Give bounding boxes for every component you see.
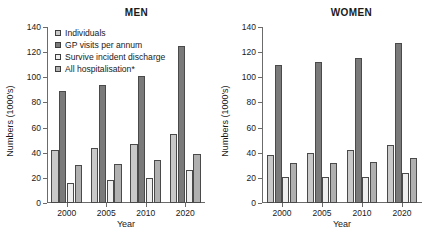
- y-tick-label: 100: [27, 72, 41, 82]
- bar: [267, 155, 274, 203]
- y-axis-label-men: Numbers (1000's): [5, 85, 15, 156]
- bar: [362, 177, 369, 203]
- y-tick-label: 40: [247, 148, 256, 158]
- y-axis-label-women: Numbers (1000's): [220, 85, 230, 156]
- bar: [67, 183, 74, 203]
- legend-item: GP visits per annum: [55, 40, 165, 51]
- y-tick-label: 20: [247, 173, 256, 183]
- bar: [290, 163, 297, 203]
- x-tick: [185, 203, 186, 207]
- plot-area-women: 0204060801001201402000200520102020: [262, 27, 422, 203]
- panel-women: WOMEN Numbers (1000's) 02040608010012014…: [217, 0, 434, 242]
- bar-group-2000: 2000: [262, 27, 302, 203]
- bar: [59, 91, 66, 203]
- y-tick-label: 60: [247, 123, 256, 133]
- figure: MEN Numbers (1000's) 0204060801001201402…: [0, 0, 434, 242]
- x-tick-label: 2010: [136, 208, 155, 218]
- bar: [395, 43, 402, 203]
- x-tick-label: 2000: [57, 208, 76, 218]
- y-tick: [258, 203, 262, 204]
- bar: [51, 150, 58, 203]
- y-tick-label: 140: [242, 22, 256, 32]
- x-tick-label: 2000: [273, 208, 292, 218]
- x-tick-label: 2010: [353, 208, 372, 218]
- x-axis-label-women: Year: [262, 219, 422, 229]
- x-tick: [362, 203, 363, 207]
- x-tick: [402, 203, 403, 207]
- bar: [410, 158, 417, 203]
- x-tick-label: 2020: [393, 208, 412, 218]
- y-tick-label: 140: [27, 22, 41, 32]
- panel-title-women: WOMEN: [217, 7, 434, 18]
- legend-swatch-icon: [55, 54, 61, 60]
- bar: [282, 177, 289, 203]
- y-tick-label: 60: [32, 123, 41, 133]
- legend-swatch-icon: [55, 30, 61, 36]
- bar-group-2005: 2005: [302, 27, 342, 203]
- bar: [146, 178, 153, 203]
- legend-item: Individuals: [55, 28, 165, 39]
- y-tick-label: 80: [32, 97, 41, 107]
- bar: [307, 153, 314, 203]
- bar: [275, 65, 282, 203]
- bar: [178, 46, 185, 203]
- y-tick-label: 120: [242, 47, 256, 57]
- bar: [330, 163, 337, 203]
- y-tick-label: 0: [36, 198, 41, 208]
- bar-group-2020: 2020: [382, 27, 422, 203]
- x-tick: [282, 203, 283, 207]
- y-tick-label: 80: [247, 97, 256, 107]
- x-tick-label: 2020: [176, 208, 195, 218]
- bar: [387, 145, 394, 203]
- legend-swatch-icon: [55, 42, 61, 48]
- bar: [402, 173, 409, 203]
- panel-title-men: MEN: [0, 7, 245, 18]
- bar: [154, 160, 161, 203]
- legend-item: All hospitalisation*: [55, 64, 165, 75]
- legend-item: Survive incident discharge: [55, 52, 165, 63]
- x-tick-label: 2005: [97, 208, 116, 218]
- x-axis-label-men: Year: [47, 219, 205, 229]
- bar: [114, 164, 121, 203]
- bar: [170, 134, 177, 203]
- panel-men: MEN Numbers (1000's) 0204060801001201402…: [0, 0, 217, 242]
- x-tick: [146, 203, 147, 207]
- y-tick-label: 0: [251, 198, 256, 208]
- bar: [355, 58, 362, 203]
- y-tick-label: 40: [32, 148, 41, 158]
- bar: [193, 154, 200, 203]
- bar: [107, 180, 114, 203]
- bar: [138, 76, 145, 203]
- y-tick-label: 100: [242, 72, 256, 82]
- y-tick: [43, 203, 47, 204]
- x-tick: [67, 203, 68, 207]
- legend-label: All hospitalisation*: [65, 64, 135, 75]
- bar: [186, 170, 193, 203]
- legend-label: GP visits per annum: [65, 40, 142, 51]
- x-tick-label: 2005: [313, 208, 332, 218]
- y-tick-label: 120: [27, 47, 41, 57]
- bar: [315, 62, 322, 203]
- bar: [347, 150, 354, 203]
- bar: [91, 148, 98, 203]
- bar: [75, 165, 82, 203]
- legend-swatch-icon: [55, 66, 61, 72]
- bar: [130, 144, 137, 203]
- bar-group-2020: 2020: [166, 27, 206, 203]
- x-tick: [106, 203, 107, 207]
- legend-label: Individuals: [65, 28, 106, 39]
- bar-group-2010: 2010: [342, 27, 382, 203]
- legend: IndividualsGP visits per annumSurvive in…: [55, 28, 165, 76]
- legend-label: Survive incident discharge: [65, 52, 165, 63]
- x-tick: [322, 203, 323, 207]
- y-tick-label: 20: [32, 173, 41, 183]
- bar: [322, 177, 329, 203]
- bar: [370, 162, 377, 203]
- bar: [99, 85, 106, 203]
